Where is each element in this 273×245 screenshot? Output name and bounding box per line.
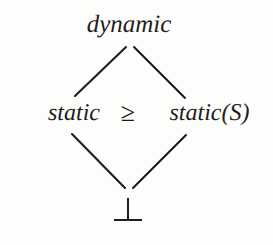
bottom-symbol-stem: [127, 198, 129, 220]
edge-bottom-to-staticS: [133, 135, 186, 188]
edge-static-to-dynamic: [75, 47, 126, 96]
lattice-diagram: dynamic static static(S) ≥: [0, 0, 273, 245]
node-static-s: static(S): [146, 101, 273, 125]
edge-bottom-to-static: [72, 134, 125, 188]
edge-staticS-to-dynamic: [134, 47, 185, 98]
node-dynamic: dynamic: [0, 12, 258, 37]
node-bottom-element: [103, 196, 153, 226]
bottom-symbol-bar: [114, 219, 142, 221]
greater-than-or-equal-symbol: ≥: [103, 100, 153, 126]
